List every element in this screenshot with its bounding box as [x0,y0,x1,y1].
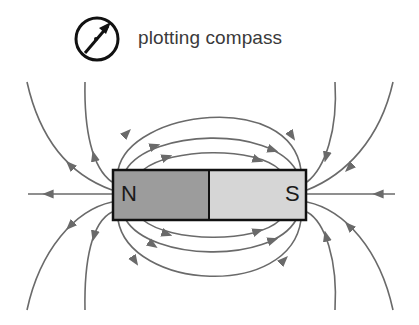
compass-label: plotting compass [138,27,282,49]
field-line-left-lower-inner [85,212,112,310]
field-line-bottom-inner [143,220,280,237]
field-line-right-lower-outer [307,202,393,310]
field-line-bottom-outer [118,220,301,276]
field-line-right-upper-inner [307,82,335,182]
field-line-left-lower-outer [27,202,112,310]
plotting-compass-icon [76,18,118,60]
magnetic-field-diagram: plotting compass N S [0,0,419,325]
field-line-top-outer [118,117,301,170]
south-pole-label: S [285,181,300,207]
field-line-right-upper-outer [307,82,393,190]
bar-magnet [113,170,306,220]
field-line-left-upper-inner [85,82,112,182]
field-line-top-inner [143,153,280,170]
north-pole-label: N [121,181,137,207]
field-line-right-lower-inner [307,212,335,310]
field-line-left-upper-outer [27,82,112,190]
